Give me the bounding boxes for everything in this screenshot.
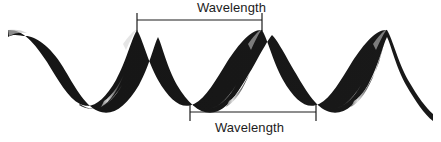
wavelength-diagram: Wavelength Wavelength (0, 0, 441, 142)
measurement-bar-top (137, 13, 262, 31)
wavelength-label-top: Wavelength (0, 1, 441, 15)
wave-ribbon-body (8, 30, 433, 121)
wavelength-label-bottom: Wavelength (0, 121, 441, 135)
